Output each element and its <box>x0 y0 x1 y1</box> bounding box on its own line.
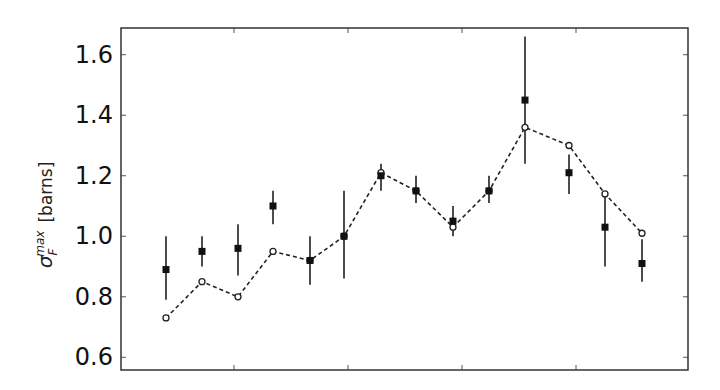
calculated-point <box>270 248 276 254</box>
y-tick-label: 1.4 <box>75 101 113 129</box>
measured-point <box>378 172 385 179</box>
y-tick-label: 1.6 <box>75 41 113 69</box>
plot-frame <box>121 28 688 370</box>
measured-point <box>639 260 646 267</box>
plot-area <box>163 37 646 321</box>
svg-text:σFmax[barns]: σFmax[barns] <box>33 162 60 269</box>
chart: σFmax[barns] 0.60.81.01.21.41.6 <box>0 0 720 390</box>
measured-point <box>307 257 314 264</box>
calculated-point <box>199 279 205 285</box>
ylabel-subscript: F <box>46 248 60 256</box>
calculated-point <box>235 294 241 300</box>
measured-point <box>413 187 420 194</box>
ylabel-superscript: max <box>33 230 47 257</box>
calculated-point <box>602 191 608 197</box>
measured-point <box>450 218 457 225</box>
ylabel-unit: [barns] <box>36 162 56 223</box>
measured-point <box>486 187 493 194</box>
measured-point <box>199 248 206 255</box>
y-tick-label: 0.8 <box>75 283 113 311</box>
measured-point <box>235 245 242 252</box>
calculated-point <box>566 142 572 148</box>
calculated-point <box>639 230 645 236</box>
measured-point <box>566 169 573 176</box>
measured-point <box>602 224 609 231</box>
measured-point <box>341 233 348 240</box>
measured-point <box>270 203 277 210</box>
y-tick-label: 0.6 <box>75 343 113 371</box>
y-axis-ticks: 0.60.81.01.21.41.6 <box>75 41 688 372</box>
calculated-point <box>163 315 169 321</box>
calculated-point <box>450 224 456 230</box>
y-tick-label: 1.2 <box>75 162 113 190</box>
y-tick-label: 1.0 <box>75 222 113 250</box>
measured-point <box>163 266 170 273</box>
calculated-point <box>522 124 528 130</box>
calculated-line <box>166 127 642 318</box>
measured-point <box>522 97 529 104</box>
y-axis-label: σFmax[barns] <box>33 162 60 269</box>
